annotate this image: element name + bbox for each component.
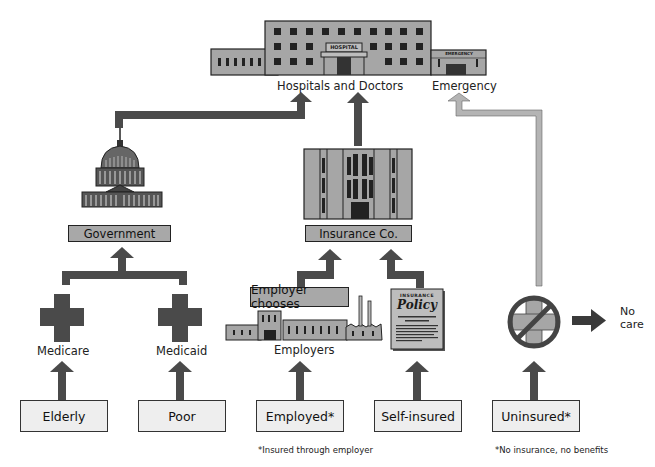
source-box-employed: Employed* (256, 400, 344, 432)
self-insured-to-policy-arrow (405, 361, 429, 400)
employed-footnote: *Insured through employer (258, 445, 373, 455)
employed-to-employers-arrow (288, 361, 312, 400)
elderly-to-medicare-arrow (50, 361, 74, 400)
medicare-label: Medicare (37, 344, 89, 358)
policy-to-insurance-arrow (379, 249, 424, 288)
source-box-uninsured: Uninsured* (492, 400, 580, 432)
policy-word: Policy (392, 298, 442, 312)
programs-to-government-arrow (62, 247, 187, 285)
uninsured-to-emergency-arrow (448, 93, 542, 286)
no-care-label-line2: care (620, 318, 644, 331)
medicaid-cross-icon (158, 294, 202, 342)
emergency-sign: EMERGENCY (436, 51, 482, 56)
source-box-self-insured: Self-insured (374, 400, 462, 432)
capitol-building-icon (82, 128, 162, 207)
no-care-label-line1: No (620, 305, 635, 318)
government-to-hospitals-arrow (115, 92, 312, 128)
no-care-symbol-icon (510, 298, 558, 346)
hospital-sign: HOSPITAL (327, 44, 361, 50)
emergency-label: Emergency (432, 79, 497, 93)
employers-label: Employers (274, 343, 335, 357)
insurance-company-label: Insurance Co. (305, 225, 412, 242)
source-box-elderly: Elderly (20, 400, 108, 432)
employer-chooses-label: Employer chooses (250, 287, 349, 307)
government-label: Government (68, 225, 171, 242)
uninsured-footnote: *No insurance, no benefits (495, 445, 608, 455)
insurance-building-icon (304, 149, 412, 219)
hospitals-and-doctors-label: Hospitals and Doctors (277, 79, 403, 93)
uninsured-to-symbol-arrow (522, 361, 546, 400)
medicare-cross-icon (40, 294, 84, 342)
insurance-to-hospitals-arrow (347, 92, 369, 146)
poor-to-medicaid-arrow (168, 361, 192, 400)
no-care-arrow (572, 309, 606, 332)
source-box-poor: Poor (138, 400, 226, 432)
medicaid-label: Medicaid (156, 344, 207, 358)
